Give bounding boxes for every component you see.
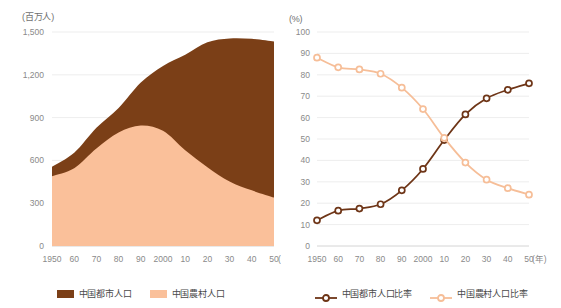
svg-text:70: 70	[301, 91, 311, 101]
legend-marker-urban-ratio	[315, 289, 337, 299]
svg-text:10: 10	[180, 254, 190, 264]
svg-text:2000: 2000	[154, 254, 173, 264]
population-area-chart-panel: (百万人) 03006009001,2001,50019506070809020…	[0, 0, 281, 308]
svg-text:40: 40	[503, 254, 513, 264]
svg-text:30: 30	[482, 254, 492, 264]
svg-text:20: 20	[461, 254, 471, 264]
svg-text:20: 20	[203, 254, 213, 264]
legend-item-rural-population: 中国農村人口	[150, 287, 225, 300]
svg-text:40: 40	[301, 155, 311, 165]
left-chart-plot: 03006009001,2001,50019506070809020001020…	[0, 0, 281, 270]
svg-text:100: 100	[296, 27, 310, 37]
right-chart-plot: 0102030405060708090100195060708090200010…	[281, 0, 561, 270]
svg-text:90: 90	[136, 254, 146, 264]
legend-label-rural-ratio: 中国農村人口比率	[457, 287, 527, 300]
svg-text:30: 30	[225, 254, 235, 264]
legend-swatch-rural-population	[150, 290, 167, 298]
left-chart-legend: 中国都市人口 中国農村人口	[0, 287, 281, 300]
legend-swatch-urban-population	[57, 290, 74, 298]
svg-text:70: 70	[355, 254, 365, 264]
svg-text:30: 30	[301, 177, 311, 187]
svg-text:1950: 1950	[308, 254, 327, 264]
legend-label-urban-ratio: 中国都市人口比率	[342, 287, 412, 300]
svg-text:90: 90	[301, 48, 311, 58]
legend-label-rural-population: 中国農村人口	[172, 287, 225, 300]
svg-text:900: 900	[30, 113, 44, 123]
svg-text:600: 600	[30, 155, 44, 165]
legend-item-urban-ratio: 中国都市人口比率	[315, 287, 412, 300]
svg-text:40: 40	[247, 254, 257, 264]
svg-text:70: 70	[92, 254, 102, 264]
svg-text:60: 60	[333, 254, 343, 264]
svg-text:80: 80	[114, 254, 124, 264]
svg-text:10: 10	[439, 254, 449, 264]
legend-label-urban-population: 中国都市人口	[79, 287, 132, 300]
svg-text:1,500: 1,500	[23, 27, 45, 37]
svg-text:20: 20	[301, 198, 311, 208]
svg-text:80: 80	[301, 70, 311, 80]
svg-text:300: 300	[30, 198, 44, 208]
svg-text:90: 90	[397, 254, 407, 264]
svg-text:0: 0	[39, 241, 44, 251]
svg-text:10: 10	[301, 220, 311, 230]
svg-text:1,200: 1,200	[23, 70, 45, 80]
right-chart-legend: 中国都市人口比率 中国農村人口比率	[281, 287, 561, 300]
svg-text:2000: 2000	[414, 254, 433, 264]
svg-text:(年): (年)	[532, 254, 547, 264]
population-ratio-line-chart-panel: (%) 010203040506070809010019506070809020…	[281, 0, 561, 308]
legend-item-rural-ratio: 中国農村人口比率	[430, 287, 527, 300]
svg-text:1950: 1950	[43, 254, 62, 264]
svg-text:60: 60	[301, 113, 311, 123]
legend-item-urban-population: 中国都市人口	[57, 287, 132, 300]
dual-chart-figure: (百万人) 03006009001,2001,50019506070809020…	[0, 0, 561, 308]
svg-text:60: 60	[69, 254, 79, 264]
legend-marker-rural-ratio	[430, 289, 452, 299]
svg-text:80: 80	[376, 254, 386, 264]
svg-text:0: 0	[305, 241, 310, 251]
svg-text:50: 50	[301, 134, 311, 144]
